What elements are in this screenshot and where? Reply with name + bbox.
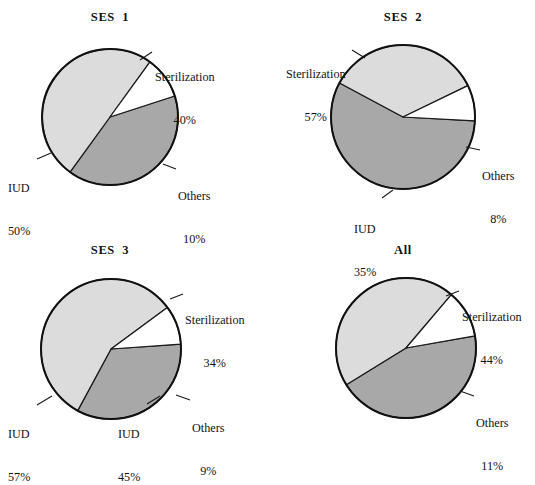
label-all-others: Others 11% xyxy=(476,387,509,485)
label-all-iud: IUD 45% xyxy=(118,398,140,485)
label-percent: 11% xyxy=(476,459,509,473)
label-text: Others xyxy=(476,416,509,430)
label-percent: 45% xyxy=(118,470,140,484)
label-percent: 9% xyxy=(192,464,225,478)
label-all-sterilization: Sterilization 44% xyxy=(462,281,522,396)
label-percent: 44% xyxy=(462,353,522,367)
label-text: IUD xyxy=(118,427,140,441)
leader-line-iud xyxy=(147,396,160,404)
label-text: Sterilization xyxy=(462,310,522,324)
label-percent: 57% xyxy=(8,470,30,484)
